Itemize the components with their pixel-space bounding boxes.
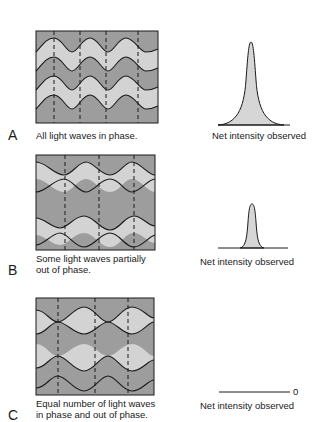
panel-c-intensity-label: Net intensity observed [200, 400, 294, 411]
panel-b-intensity-peak [218, 204, 288, 248]
panel-c-wave-box [36, 298, 154, 395]
panel-a-caption: All light waves in phase. [36, 130, 137, 141]
panel-b-caption-line1: Some light waves partially [36, 253, 146, 264]
panel-b-caption-line2: out of phase. [36, 264, 91, 275]
panel-c-letter: C [8, 408, 18, 422]
panel-a-wave-box [36, 31, 158, 123]
panel-a-intensity-peak [218, 42, 290, 125]
panel-c-caption-line1: Equal number of light waves [36, 398, 155, 409]
interference-figure [0, 0, 328, 422]
panel-a-intensity-label: Net intensity observed [212, 130, 306, 141]
panel-b-intensity-label: Net intensity observed [200, 256, 294, 267]
panel-b-letter: B [8, 263, 17, 277]
panel-a-letter: A [8, 128, 17, 142]
panel-b-wave-box [36, 155, 155, 250]
panel-c-caption-line2: in phase and out of phase. [36, 409, 148, 420]
panel-c-zero-label: 0 [293, 386, 298, 397]
